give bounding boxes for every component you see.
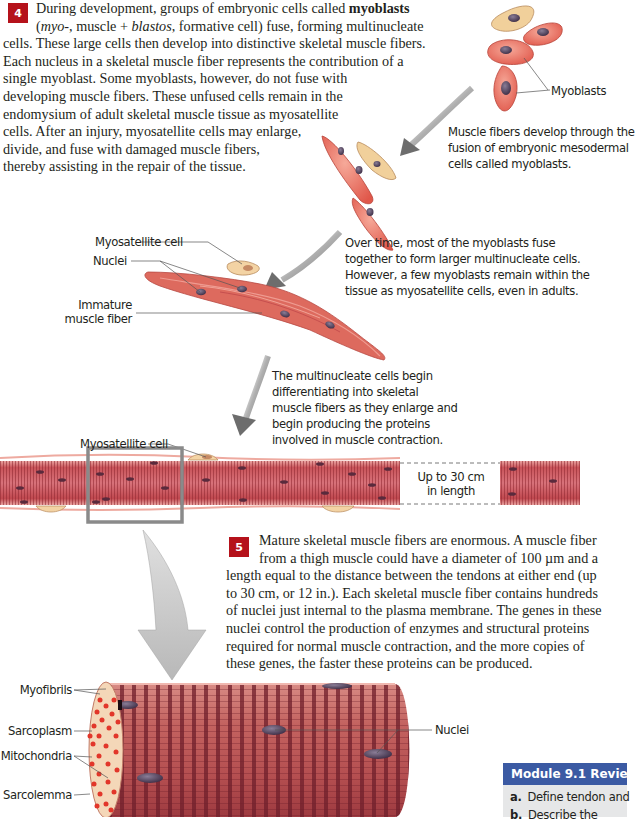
review-item-a: a.Define tendon and: [510, 790, 629, 804]
label-sarcolemma: Sarcolemma: [0, 788, 72, 802]
module-review-header: Module 9.1 Review: [503, 763, 627, 785]
caption-myoblasts: Muscle fibers develop through the fusion…: [448, 124, 635, 172]
label-myoblasts: Myoblasts: [551, 84, 606, 98]
zoom-arrow: [138, 530, 206, 680]
section-4-paragraph: During development, groups of embryonic …: [3, 0, 426, 176]
label-myofibrils: Myofibrils: [0, 683, 72, 697]
label-mitochondria: Mitochondria: [0, 749, 72, 763]
label-sarcoplasm: Sarcoplasm: [0, 724, 72, 738]
term-myoblasts: myoblasts: [349, 0, 410, 16]
label-immature-fiber: Immature muscle fiber: [38, 298, 132, 326]
label-nuclei-1: Nuclei: [93, 254, 127, 268]
review-item-b: b.Describe the: [510, 808, 598, 822]
label-fiber-length: Up to 30 cm in length: [416, 470, 486, 498]
label-nuclei-2: Nuclei: [435, 723, 469, 737]
caption-differentiation: The multinucleate cells begin differenti…: [272, 368, 458, 448]
caption-fusion: Over time, most of the myoblasts fuse to…: [345, 235, 589, 299]
label-myosatellite-cell-1: Myosatellite cell: [95, 235, 183, 249]
section-5-paragraph: Mature skeletal muscle fibers are enormo…: [226, 532, 602, 673]
label-myosatellite-cell-2: Myosatellite cell: [80, 437, 168, 451]
muscle-fiber-cylinder: [88, 682, 410, 817]
